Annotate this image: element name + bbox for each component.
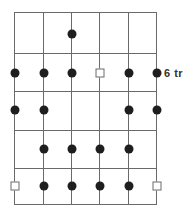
- grid-hline: [14, 168, 157, 169]
- grid-hline: [14, 12, 157, 13]
- dot-marker: [39, 106, 48, 115]
- dot-marker: [10, 69, 19, 78]
- square-marker: [152, 182, 161, 191]
- square-marker: [10, 182, 19, 191]
- row-label: 6 tr: [164, 67, 183, 79]
- dot-marker: [152, 106, 161, 115]
- dot-marker: [39, 69, 48, 78]
- grid-diagram: 6 tr: [0, 0, 185, 224]
- dot-marker: [10, 106, 19, 115]
- grid-vline: [71, 12, 72, 205]
- dot-marker: [39, 145, 48, 154]
- dot-marker: [67, 69, 76, 78]
- grid-hline: [14, 204, 157, 205]
- square-marker: [95, 69, 104, 78]
- dot-marker: [67, 30, 76, 39]
- grid-hline: [14, 130, 157, 131]
- dot-marker: [95, 182, 104, 191]
- dot-marker: [152, 69, 161, 78]
- dot-marker: [124, 106, 133, 115]
- dot-marker: [67, 182, 76, 191]
- dot-marker: [124, 182, 133, 191]
- grid-vline: [99, 12, 100, 205]
- grid-hline: [14, 91, 157, 92]
- dot-marker: [39, 182, 48, 191]
- dot-marker: [124, 69, 133, 78]
- dot-marker: [67, 145, 76, 154]
- dot-marker: [95, 145, 104, 154]
- grid-hline: [14, 53, 157, 54]
- dot-marker: [124, 145, 133, 154]
